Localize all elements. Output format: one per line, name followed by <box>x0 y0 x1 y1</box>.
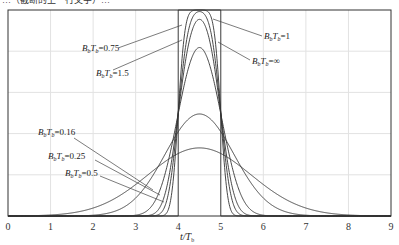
plot-frame <box>8 10 391 216</box>
series-label: BbTb=0.5 <box>65 168 98 179</box>
gaussian-pulse-chart: …（截断的上一行文字）… 0123456789 t/Tb BbTb=∞BbTb=… <box>0 0 399 245</box>
x-axis-label: t/Tb <box>180 231 194 243</box>
grid <box>8 10 391 216</box>
x-tick-label: 3 <box>133 221 138 232</box>
x-tick-label: 7 <box>303 221 308 232</box>
series-line <box>8 10 391 216</box>
series-label: BbTb=0.75 <box>82 43 120 54</box>
x-tick-label: 5 <box>218 221 223 232</box>
x-tick-label: 8 <box>346 221 351 232</box>
x-tick-label: 0 <box>6 221 11 232</box>
label-leader-line <box>74 138 153 190</box>
series-label: BbTb=0.16 <box>38 127 76 138</box>
curves <box>8 10 391 216</box>
series-label: BbTb=1.5 <box>96 68 129 79</box>
series-label: BbTb=∞ <box>252 56 280 67</box>
x-tick-label: 9 <box>389 221 394 232</box>
label-leader-line <box>95 160 160 195</box>
x-tick-labels: 0123456789 <box>6 221 394 232</box>
series-line <box>8 19 391 216</box>
series-line <box>8 10 391 216</box>
label-leader-line <box>113 40 182 70</box>
x-tick-label: 1 <box>48 221 53 232</box>
series-label: BbTb=0.25 <box>48 151 86 162</box>
series-label: BbTb=1 <box>264 31 290 42</box>
header-fragment: …（截断的上一行文字）… <box>2 0 110 5</box>
x-tick-label: 2 <box>91 221 96 232</box>
x-tick-label: 6 <box>261 221 266 232</box>
